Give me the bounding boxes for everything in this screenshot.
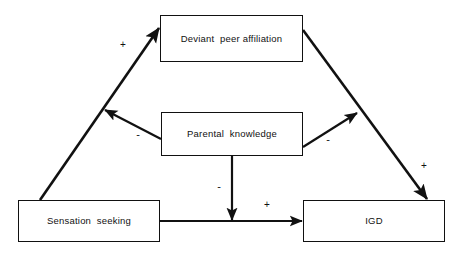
node-igd[interactable]: IGD xyxy=(303,200,445,242)
edge-sign-deviant-to-igd: + xyxy=(417,161,431,171)
node-deviant-peer-affiliation[interactable]: Deviant peer affiliation xyxy=(160,15,303,62)
node-sensation-seeking[interactable]: Sensation seeking xyxy=(18,200,160,242)
node-label-parental-knowledge: Parental knowledge xyxy=(187,129,277,139)
edge-sign-knowledge-left-moderation: - xyxy=(131,129,145,140)
path-diagram: Deviant peer affiliation Parental knowle… xyxy=(0,0,465,257)
edge-sign-sensation-to-igd: + xyxy=(260,200,274,210)
node-label-deviant-peer-affiliation: Deviant peer affiliation xyxy=(181,34,282,44)
edge-sign-knowledge-bottom-moderation: - xyxy=(212,181,226,192)
node-label-sensation-seeking: Sensation seeking xyxy=(47,216,131,226)
edge-sign-sensation-to-deviant: + xyxy=(116,40,130,50)
edge-sensation-to-deviant xyxy=(40,28,159,200)
edge-sign-knowledge-right-moderation: - xyxy=(321,134,335,145)
node-parental-knowledge[interactable]: Parental knowledge xyxy=(161,112,303,156)
edge-deviant-to-igd xyxy=(303,30,427,199)
node-label-igd: IGD xyxy=(365,216,383,226)
